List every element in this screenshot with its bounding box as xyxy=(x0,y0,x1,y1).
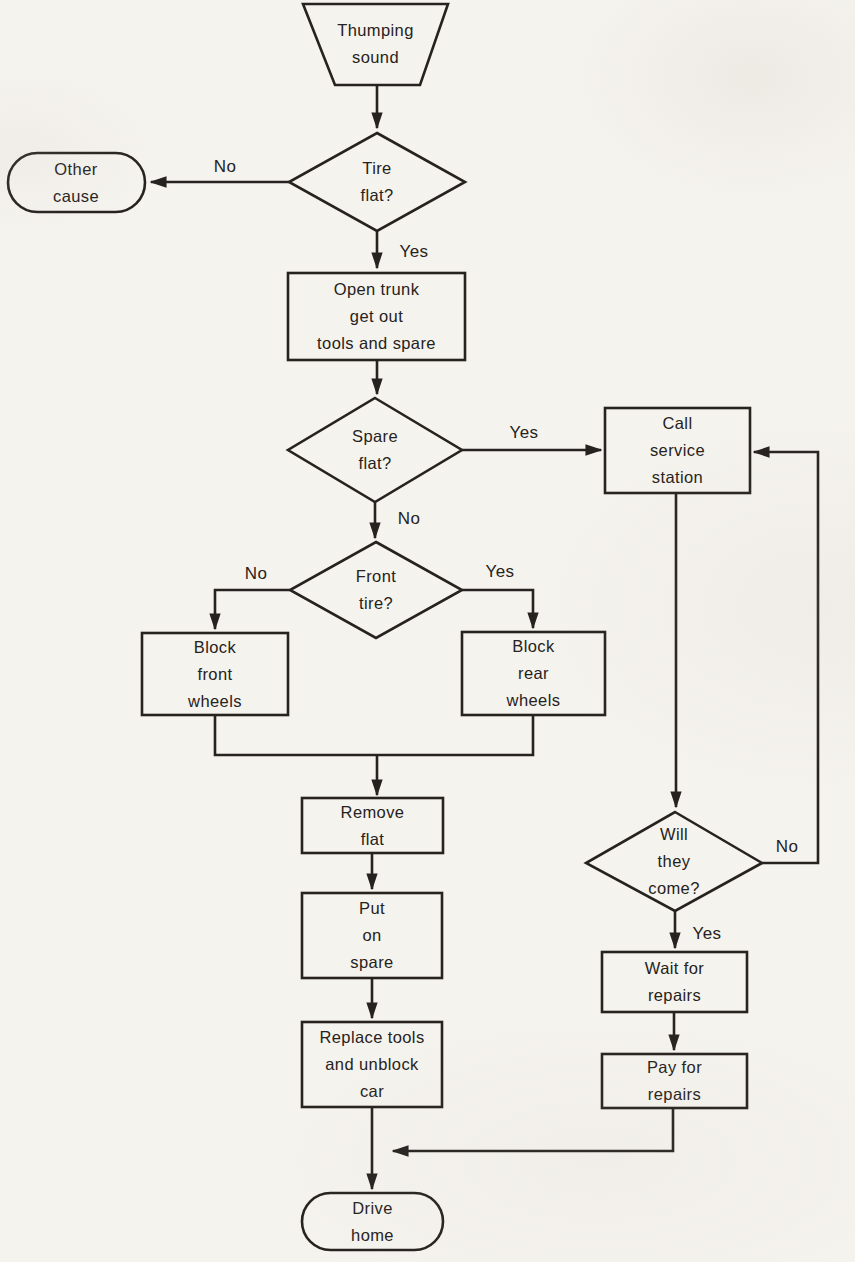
flowchart-figure: Thumping sound Tire flat? Other cause Op… xyxy=(0,0,855,1262)
shape-thumping-sound xyxy=(303,4,448,85)
shape-spare-flat xyxy=(288,398,462,502)
shape-replace-tools xyxy=(302,1022,442,1107)
shape-block-front-wheels xyxy=(142,633,288,715)
flowchart-graphics xyxy=(0,0,855,1262)
edge-front-tire-yes-to-block-rear xyxy=(462,590,533,628)
shape-drive-home xyxy=(302,1193,443,1250)
shape-call-service-station xyxy=(605,408,750,493)
shape-tire-flat xyxy=(289,133,465,231)
edge-pay-to-drive-home-merge xyxy=(393,1108,673,1151)
shape-other-cause xyxy=(8,153,145,212)
edge-block-wheels-merge xyxy=(215,715,533,755)
shape-pay-for-repairs xyxy=(602,1054,747,1108)
edge-front-tire-no-to-block-front xyxy=(215,590,290,629)
shape-wait-for-repairs xyxy=(602,952,747,1012)
shape-put-on-spare xyxy=(302,893,442,978)
shape-open-trunk xyxy=(288,273,465,360)
shape-block-rear-wheels xyxy=(462,632,605,715)
shape-remove-flat xyxy=(302,798,443,853)
shape-will-they-come xyxy=(586,812,762,911)
shape-front-tire xyxy=(290,542,462,638)
edge-will-they-come-no-loop xyxy=(754,452,818,863)
